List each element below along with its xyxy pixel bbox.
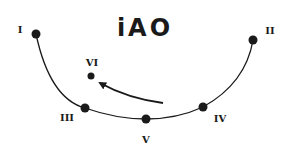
point-ii-dot (249, 36, 258, 45)
point-iii-dot (81, 104, 90, 113)
point-i-dot (32, 30, 41, 39)
diagram-canvas: iAO I II VI III V IV (0, 0, 290, 152)
point-v-dot (142, 115, 151, 124)
orbit-arc (36, 34, 253, 119)
point-v-label: V (141, 134, 150, 145)
diagram-svg: iAO I II VI III V IV (0, 0, 290, 152)
point-iv-label: IV (214, 113, 227, 124)
point-vi-dot (88, 73, 95, 80)
point-ii-label: II (265, 25, 275, 36)
point-i-label: I (18, 24, 23, 35)
direction-arrow (100, 83, 163, 103)
diagram-title: iAO (117, 14, 173, 42)
point-iv-dot (199, 103, 208, 112)
point-vi-label: VI (85, 57, 99, 68)
point-iii-label: III (60, 112, 74, 123)
